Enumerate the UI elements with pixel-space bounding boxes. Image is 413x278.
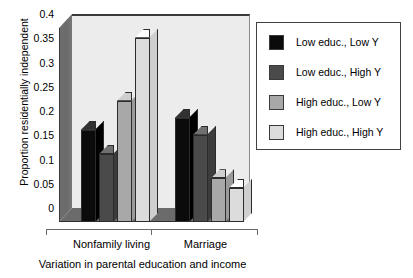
- legend-item: High educ., Low Y: [269, 95, 397, 111]
- plot-area: [59, 14, 249, 222]
- y-tick-label: 0.3: [20, 58, 54, 68]
- plot-left-wall-edge: [59, 28, 60, 222]
- y-tick-label: 0.2: [20, 106, 54, 116]
- y-tick-label: 0.1: [20, 155, 54, 165]
- bar-front-face: [175, 118, 190, 222]
- y-tick-label: 0.4: [20, 9, 54, 19]
- y-tick-label: 0: [20, 203, 54, 213]
- x-tick-mark: [151, 229, 152, 235]
- bar-side-face: [149, 29, 158, 222]
- legend-swatch: [269, 125, 284, 140]
- y-axis-ticks: 0.40.350.30.250.20.150.10.050: [18, 0, 54, 230]
- bar: [99, 154, 114, 222]
- y-tick-label: 0.05: [20, 179, 54, 189]
- bar: [175, 118, 190, 222]
- chart-legend: Low educ., Low YLow educ., High YHigh ed…: [256, 22, 401, 150]
- legend-item: High educ., High Y: [269, 125, 397, 141]
- chart-figure: Proportion residentially independent 0.4…: [0, 0, 413, 278]
- bar-front-face: [135, 38, 150, 222]
- y-tick-label: 0.35: [20, 33, 54, 43]
- x-tick-mark: [46, 229, 47, 235]
- bar-front-face: [99, 154, 114, 222]
- x-category-label: Marriage: [146, 238, 266, 250]
- legend-item: Low educ., High Y: [269, 65, 397, 81]
- bar: [193, 135, 208, 222]
- legend-swatch: [269, 35, 284, 50]
- legend-label: High educ., Low Y: [296, 96, 381, 108]
- bar: [117, 101, 132, 222]
- bar: [135, 38, 150, 222]
- bar: [211, 178, 226, 222]
- bar: [81, 130, 96, 222]
- bar-front-face: [193, 135, 208, 222]
- legend-label: Low educ., Low Y: [296, 36, 379, 48]
- legend-label: Low educ., High Y: [296, 66, 381, 78]
- y-tick-label: 0.25: [20, 82, 54, 92]
- bar-front-face: [211, 178, 226, 222]
- x-axis-title: Variation in parental education and inco…: [0, 258, 285, 270]
- y-tick-label: 0.15: [20, 130, 54, 140]
- legend-item: Low educ., Low Y: [269, 35, 397, 51]
- x-tick-mark: [257, 229, 258, 235]
- bar: [229, 188, 244, 222]
- bar-front-face: [229, 188, 244, 222]
- legend-label: High educ., High Y: [296, 126, 383, 138]
- legend-swatch: [269, 95, 284, 110]
- legend-swatch: [269, 65, 284, 80]
- bar-front-face: [117, 101, 132, 222]
- bar-front-face: [81, 130, 96, 222]
- plot-left-wall: [59, 14, 72, 222]
